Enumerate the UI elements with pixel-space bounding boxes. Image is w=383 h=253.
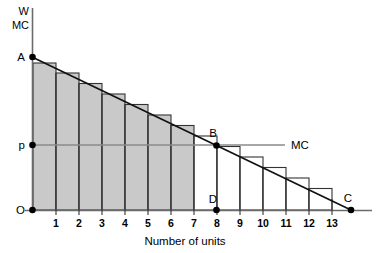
point-label-D: D xyxy=(209,193,217,205)
y-axis-label-mc: MC xyxy=(12,19,29,31)
x-tick-label-1: 1 xyxy=(53,217,59,229)
point-label-C: C xyxy=(344,192,352,204)
point-label-A: A xyxy=(17,51,25,63)
step-bar-unit-12 xyxy=(286,178,309,210)
y-axis-label-w: W xyxy=(19,5,30,17)
point-dot-B xyxy=(213,142,220,149)
step-bar-unit-5 xyxy=(125,105,148,211)
point-dot-D xyxy=(213,207,220,214)
mc-curve-label: MC xyxy=(291,139,309,151)
x-tick-label-4: 4 xyxy=(122,217,128,229)
diagram-canvas: W MC A p O B D C MC 1 2 3 4 5 6 7 8 9 10… xyxy=(0,0,383,253)
point-dot-A xyxy=(29,54,36,61)
point-dot-O xyxy=(29,207,36,214)
shaded-step-bars-group xyxy=(33,63,194,210)
economics-surplus-diagram: W MC A p O B D C MC 1 2 3 4 5 6 7 8 9 10… xyxy=(0,0,383,253)
x-tick-label-7: 7 xyxy=(191,217,197,229)
step-bar-unit-6 xyxy=(148,115,171,210)
x-tick-label-12: 12 xyxy=(303,217,315,229)
x-tick-label-3: 3 xyxy=(99,217,105,229)
step-bar-unit-4 xyxy=(102,94,125,210)
x-tick-label-10: 10 xyxy=(257,217,269,229)
x-tick-label-13: 13 xyxy=(326,217,338,229)
point-dot-p xyxy=(29,142,36,149)
x-tick-label-11: 11 xyxy=(280,217,291,229)
step-bar-unit-2 xyxy=(56,73,79,210)
point-label-O: O xyxy=(16,204,25,216)
x-tick-label-5: 5 xyxy=(145,217,151,229)
x-axis-caption: Number of units xyxy=(144,235,225,247)
point-label-B: B xyxy=(209,127,217,139)
x-tick-labels-group: 1 2 3 4 5 6 7 8 9 10 11 12 13 xyxy=(53,217,338,229)
point-label-p: p xyxy=(19,139,25,151)
x-tick-label-2: 2 xyxy=(76,217,82,229)
step-bar-unit-7 xyxy=(171,126,194,211)
x-tick-label-8: 8 xyxy=(214,217,220,229)
step-bar-unit-1 xyxy=(33,63,56,210)
point-dot-C xyxy=(348,207,355,214)
x-tick-label-9: 9 xyxy=(237,217,243,229)
x-tick-label-6: 6 xyxy=(168,217,174,229)
step-bar-unit-10 xyxy=(240,157,263,210)
step-bar-unit-3 xyxy=(79,84,102,211)
